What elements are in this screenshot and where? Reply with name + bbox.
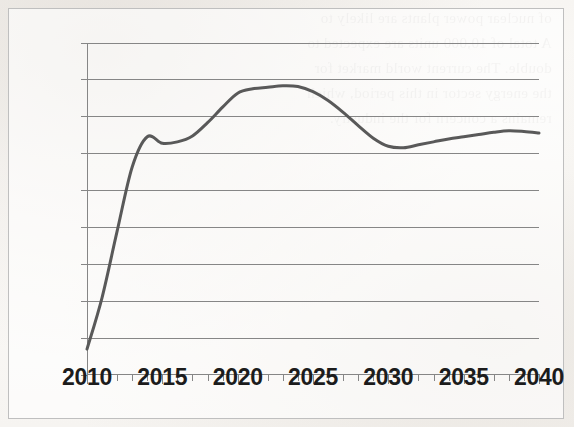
y-axis-label-area: 051015202530354045: [9, 9, 87, 341]
data-series-line: [87, 43, 539, 375]
plot-area: [87, 43, 539, 375]
x-axis-tick-label: 2040: [494, 364, 574, 391]
chart-frame: 051015202530354045 201020152020202520302…: [8, 8, 564, 419]
